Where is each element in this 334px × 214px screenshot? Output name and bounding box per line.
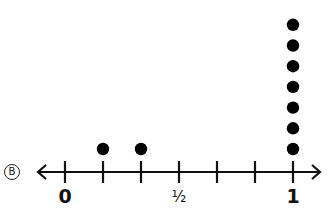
data-dot bbox=[287, 122, 299, 134]
data-dot bbox=[287, 81, 299, 93]
data-dots bbox=[97, 19, 299, 156]
data-dot bbox=[135, 143, 147, 155]
dot-plot bbox=[0, 0, 334, 214]
data-dot bbox=[287, 19, 299, 31]
tick-label: ½ bbox=[172, 188, 187, 206]
data-dot bbox=[287, 39, 299, 51]
data-dot bbox=[287, 143, 299, 155]
data-dot bbox=[287, 60, 299, 72]
tick-label: 0 bbox=[58, 185, 71, 207]
tick-label: 1 bbox=[286, 185, 299, 207]
data-dot bbox=[287, 101, 299, 113]
data-dot bbox=[97, 143, 109, 155]
option-letter-badge: B bbox=[4, 164, 20, 180]
